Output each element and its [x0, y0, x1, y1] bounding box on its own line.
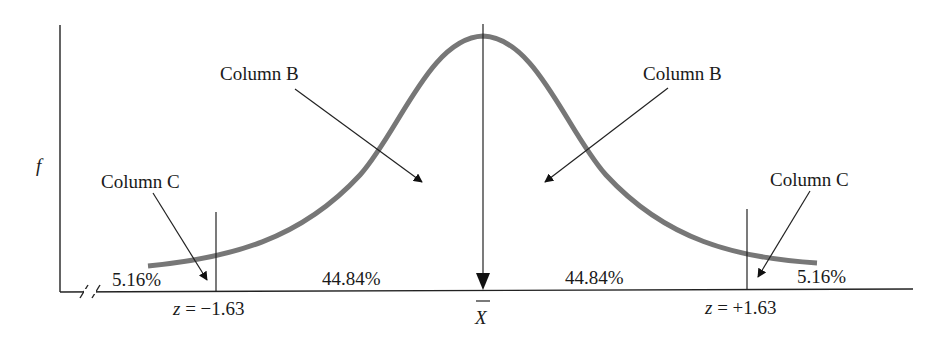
arrow-column-b-left: [295, 89, 422, 182]
callout-column-b-right: Column B: [643, 63, 722, 84]
mean-arrowhead: [476, 273, 490, 290]
z-label-left: z = −1.63: [172, 298, 245, 319]
z-value-left: = −1.63: [180, 298, 244, 319]
callout-column-c-right: Column C: [770, 169, 849, 190]
percent-left-tail: 5.16%: [112, 269, 161, 290]
percent-left-middle: 44.84%: [322, 268, 381, 289]
y-axis-label: f: [36, 155, 44, 176]
arrow-column-b-right: [545, 88, 668, 182]
percent-right-tail: 5.16%: [797, 266, 846, 287]
x-axis: [60, 289, 913, 292]
normal-curve-diagram: f Column B Column B Column C Column C 5.…: [0, 0, 946, 352]
callout-column-b-left: Column B: [220, 63, 299, 84]
callout-column-c-left: Column C: [101, 171, 180, 192]
mean-label: X: [474, 307, 488, 328]
z-label-right: z = +1.63: [704, 297, 777, 318]
percent-right-middle: 44.84%: [565, 267, 624, 288]
z-value-right: = +1.63: [712, 297, 776, 318]
